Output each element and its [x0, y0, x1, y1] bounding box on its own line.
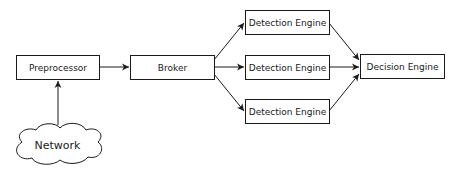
preprocessor-label: Preprocessor: [29, 63, 87, 73]
decision-engine-label: Decision Engine: [366, 62, 438, 72]
detection-engine-label: Detection Engine: [249, 107, 326, 117]
detection-engine-node-1: Detection Engine: [245, 10, 330, 35]
preprocessor-node: Preprocessor: [16, 55, 100, 80]
detection-engine-label: Detection Engine: [249, 18, 326, 28]
broker-label: Broker: [158, 63, 187, 73]
detection-engine-label: Detection Engine: [249, 63, 326, 73]
detection-engine-node-3: Detection Engine: [245, 99, 330, 124]
detection-engine-node-2: Detection Engine: [245, 55, 330, 80]
edge-detection-3-decision: [329, 74, 359, 111]
broker-node: Broker: [130, 55, 215, 80]
decision-engine-node: Decision Engine: [360, 54, 445, 79]
edge-broker-detection-1: [214, 23, 244, 60]
network-label: Network: [12, 139, 103, 152]
edge-broker-detection-3: [214, 74, 244, 111]
edge-detection-1-decision: [329, 23, 359, 60]
